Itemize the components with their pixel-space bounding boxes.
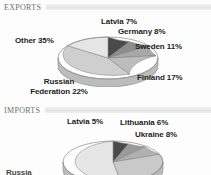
imports-label-cut-off: Russia bbox=[6, 168, 32, 175]
header-rule bbox=[45, 107, 211, 113]
imports-section-title: IMPORTS bbox=[0, 106, 45, 115]
header-rule bbox=[46, 4, 211, 10]
imports-label-latvia: Latvia 5% bbox=[67, 117, 103, 127]
exports-label-germany: Germany 8% bbox=[118, 27, 165, 37]
exports-label-finland: Finland 17% bbox=[137, 73, 183, 83]
imports-label-lithuania: Lithuania 6% bbox=[120, 118, 168, 128]
imports-label-ukraine: Ukraine 8% bbox=[135, 130, 177, 140]
imports-section-header: IMPORTS bbox=[0, 104, 211, 116]
exports-label-latvia: Latvia 7% bbox=[101, 17, 137, 27]
exports-section-title: EXPORTS bbox=[0, 3, 46, 12]
exports-label-sweden: Sweden 11% bbox=[135, 42, 182, 52]
exports-section-header: EXPORTS bbox=[0, 1, 211, 13]
exports-label-other: Other 35% bbox=[15, 36, 54, 46]
exports-label-russian-federation: Russian Federation 22% bbox=[28, 77, 90, 96]
